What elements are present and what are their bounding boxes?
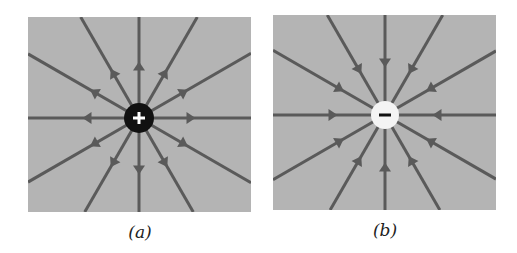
field-line	[139, 53, 251, 118]
field-line	[273, 50, 385, 115]
field-line	[139, 118, 251, 183]
arrowhead-icon	[187, 112, 196, 124]
field-line	[273, 115, 385, 180]
panel-positive-charge	[28, 17, 251, 212]
arrowhead-icon	[133, 166, 145, 175]
panel-negative-charge	[273, 15, 496, 210]
caption-a: (a)	[110, 222, 170, 242]
field-lines-outward	[28, 17, 251, 212]
arrowhead-icon	[433, 109, 442, 121]
arrowhead-icon	[133, 62, 145, 71]
field-line	[28, 54, 139, 118]
field-lines-inward	[273, 15, 496, 210]
minus-sign-icon	[379, 114, 391, 117]
arrowhead-icon	[379, 163, 391, 172]
arrowhead-icon	[83, 112, 92, 124]
field-line	[28, 118, 139, 182]
field-line	[385, 51, 496, 115]
caption-b: (b)	[355, 220, 415, 240]
arrowhead-icon	[379, 59, 391, 68]
field-line	[385, 115, 496, 179]
arrowhead-icon	[329, 109, 338, 121]
